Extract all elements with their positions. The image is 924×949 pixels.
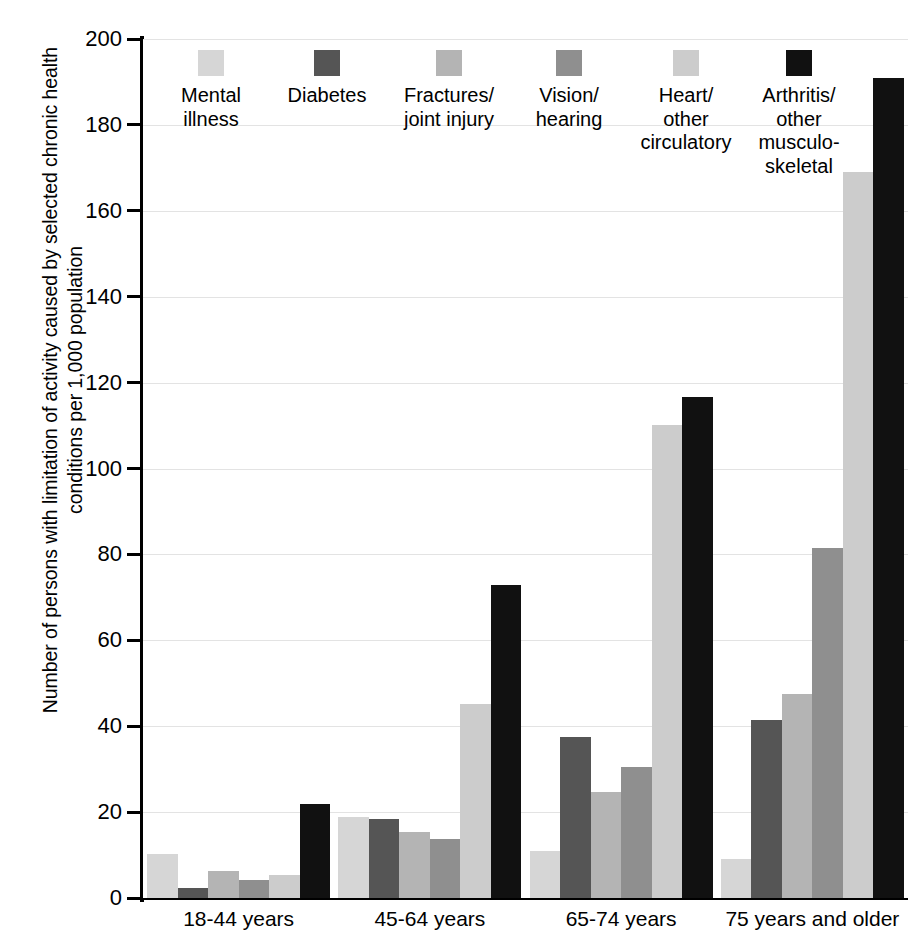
y-axis-tick: [127, 209, 140, 212]
x-axis-label-1: 18-44 years: [183, 908, 294, 929]
gridline: [143, 640, 908, 641]
y-axis-title: conditions per 1,000 population Number o…: [35, 30, 91, 730]
bar: [239, 880, 270, 898]
y-axis-tick: [127, 467, 140, 470]
y-axis-tick: [127, 725, 140, 728]
y-axis-tick-label: 100: [85, 458, 122, 480]
bar: [338, 817, 369, 898]
bar: [621, 767, 652, 898]
y-axis-tick: [127, 381, 140, 384]
bar: [591, 792, 622, 898]
y-axis-tick: [127, 639, 140, 642]
bar: [682, 397, 713, 898]
y-axis-title-line-1: Number of persons with limitation of act…: [38, 47, 63, 713]
gridline: [143, 383, 908, 384]
y-axis-tick: [127, 553, 140, 556]
y-axis-tick-label: 180: [85, 114, 122, 136]
bar: [751, 720, 782, 898]
y-axis-tick-label: 60: [98, 629, 122, 651]
x-axis-label-4: 75 years and older: [725, 908, 899, 929]
y-axis-title-line-2: conditions per 1,000 population: [63, 246, 88, 514]
bar: [460, 704, 491, 898]
gridline: [143, 39, 908, 40]
bar: [843, 172, 874, 898]
x-axis-label-3: 65-74 years: [566, 908, 677, 929]
bar: [269, 875, 300, 898]
gridline: [143, 211, 908, 212]
bar: [530, 851, 561, 898]
y-axis: 020406080100120140160180200: [0, 0, 140, 949]
bar: [369, 819, 400, 898]
bar: [560, 737, 591, 898]
y-axis-tick: [127, 811, 140, 814]
y-axis-tick-label: 120: [85, 372, 122, 394]
y-axis-tick: [127, 295, 140, 298]
gridline: [143, 469, 908, 470]
y-axis-tick: [127, 897, 140, 900]
gridline: [143, 297, 908, 298]
bar: [491, 585, 522, 898]
y-axis-tick-label: 160: [85, 200, 122, 222]
y-axis-tick-label: 20: [98, 801, 122, 823]
bar: [208, 871, 239, 898]
y-axis-tick: [127, 123, 140, 126]
bar: [178, 888, 209, 898]
y-axis-tick-label: 0: [110, 887, 122, 909]
bar: [652, 425, 683, 898]
bar: [300, 804, 331, 898]
bar: [873, 78, 904, 898]
y-axis-tick-label: 80: [98, 543, 122, 565]
y-axis-tick-label: 140: [85, 286, 122, 308]
bar: [812, 548, 843, 898]
bar: [430, 839, 461, 898]
y-axis-tick: [127, 38, 140, 41]
bar: [399, 832, 430, 898]
plot-area: [143, 39, 908, 898]
gridline: [143, 125, 908, 126]
bar-chart: conditions per 1,000 population Number o…: [0, 0, 924, 949]
bar: [147, 854, 178, 898]
y-axis-tick-label: 200: [85, 28, 122, 50]
x-axis-label-2: 45-64 years: [374, 908, 485, 929]
y-axis-tick-label: 40: [98, 715, 122, 737]
bar: [721, 859, 752, 898]
gridline: [143, 554, 908, 555]
bar: [782, 694, 813, 898]
